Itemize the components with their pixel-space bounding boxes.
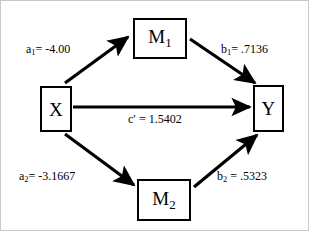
node-m1-label: M1 (148, 27, 172, 50)
path-label-a1-value: = -4.00 (36, 42, 71, 56)
path-arrow-a1 (65, 37, 128, 83)
path-label-a2: a2= -3.1667 (19, 170, 75, 185)
node-x-label: X (49, 100, 63, 119)
node-m2-subscript: 2 (169, 196, 175, 211)
path-label-c-coefficient: c′ (128, 112, 136, 126)
path-label-b1-value: = .7136 (231, 42, 268, 56)
node-y: Y (253, 85, 284, 132)
node-x: X (40, 86, 72, 132)
node-m2: M2 (137, 179, 191, 221)
path-label-a2-value: = -3.1667 (29, 169, 76, 183)
path-label-b2-subscript: 2 (223, 175, 227, 184)
path-label-c-prime: c′ = 1.5402 (128, 113, 182, 125)
node-y-label: Y (262, 99, 276, 118)
path-label-b2-value: = .5323 (230, 169, 267, 183)
path-label-a1: a1= -4.00 (26, 43, 70, 58)
path-label-b2: b2 = .5323 (217, 170, 267, 185)
node-m2-label: M2 (152, 189, 176, 212)
path-label-c-value: = 1.5402 (139, 112, 182, 126)
node-m1: M1 (133, 18, 187, 59)
path-diagram: X M1 M2 Y a1= -4.00 b1= .7136 c′ = 1.540… (0, 0, 309, 231)
path-label-b1: b1= .7136 (221, 43, 268, 58)
node-m1-base: M (148, 26, 165, 47)
node-m2-base: M (152, 188, 169, 209)
node-m1-subscript: 1 (165, 35, 171, 50)
path-arrow-a2 (65, 134, 134, 185)
